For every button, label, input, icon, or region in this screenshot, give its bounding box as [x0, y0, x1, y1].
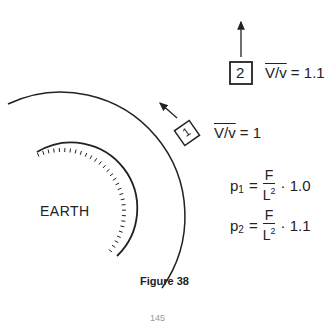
equals-sign: = — [249, 177, 258, 194]
hatch-tick — [118, 188, 122, 189]
fraction: F L2 — [263, 208, 276, 243]
hatch-tick — [110, 174, 113, 176]
equals-sign: = — [249, 217, 258, 234]
hatch-tick — [75, 150, 76, 154]
hatch-tick — [95, 158, 97, 161]
orbit-diagram — [0, 0, 334, 322]
hatch-tick — [109, 249, 112, 251]
equals-sign: = — [240, 124, 249, 141]
hatch-tick — [85, 153, 87, 157]
orbit-arc — [8, 92, 185, 288]
denominator: L2 — [263, 184, 276, 203]
hatch-tick — [99, 161, 101, 164]
equation-factor: 1.1 — [290, 217, 311, 234]
hatch-tick — [90, 155, 92, 159]
numerator: F — [263, 208, 276, 224]
multiply-dot: · — [280, 177, 289, 194]
earth-surface-hatching — [37, 148, 126, 252]
numerator: F — [263, 168, 276, 184]
velocity-ratio-2: V/v = 1.1 — [265, 64, 325, 81]
page-number: 145 — [150, 313, 165, 322]
hatch-tick — [113, 178, 116, 180]
equation-subscript: 1 — [238, 184, 244, 195]
velocity-symbol: V/v — [265, 64, 287, 81]
equals-sign: = — [291, 64, 300, 81]
denominator: L2 — [263, 224, 276, 243]
equation-p2: p2 = F L2 · 1.1 — [230, 208, 311, 243]
equation-lhs: p — [230, 217, 238, 234]
hatch-tick — [112, 245, 115, 247]
hatch-tick — [103, 165, 106, 168]
equation-subscript: 2 — [238, 224, 244, 235]
earth-label: EARTH — [40, 203, 90, 219]
hatch-tick — [107, 169, 110, 172]
equation-p1: p1 = F L2 · 1.0 — [230, 168, 311, 203]
velocity-ratio-1: V/v = 1 — [214, 124, 261, 141]
ratio-value: 1.1 — [304, 64, 325, 81]
hatch-tick — [121, 221, 125, 222]
equation-lhs: p — [230, 177, 238, 194]
hatch-tick — [37, 153, 39, 157]
hatch-tick — [116, 183, 120, 185]
hatch-tick — [70, 149, 71, 153]
satellite-2-label: 2 — [236, 64, 244, 81]
hatch-tick — [119, 193, 123, 194]
hatch-tick — [121, 199, 125, 200]
hatch-tick — [115, 241, 119, 243]
hatch-tick — [80, 151, 81, 155]
fraction: F L2 — [263, 168, 276, 203]
hatch-tick — [119, 231, 123, 232]
figure-caption: Figure 38 — [140, 275, 189, 287]
hatch-tick — [120, 226, 124, 227]
hatch-tick — [43, 151, 44, 155]
hatch-tick — [117, 236, 121, 238]
equation-factor: 1.0 — [290, 177, 311, 194]
ratio-value: 1 — [253, 124, 261, 141]
hatch-tick — [48, 150, 49, 154]
hatch-tick — [54, 149, 55, 153]
multiply-dot: · — [280, 217, 289, 234]
velocity-arrow-1 — [160, 103, 177, 118]
velocity-symbol: V/v — [214, 124, 236, 141]
